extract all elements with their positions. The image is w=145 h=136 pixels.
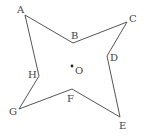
label-f: F <box>67 93 74 104</box>
label-d: D <box>110 52 118 63</box>
center-point-o <box>71 65 74 68</box>
label-g: G <box>9 106 17 117</box>
label-o: O <box>75 65 83 76</box>
label-h: H <box>28 69 37 80</box>
label-a: A <box>16 4 25 15</box>
label-c: C <box>129 13 137 24</box>
star-octagon-diagram: ABCDEFGH O <box>0 0 145 136</box>
label-b: B <box>71 30 78 41</box>
label-e: E <box>119 120 126 131</box>
